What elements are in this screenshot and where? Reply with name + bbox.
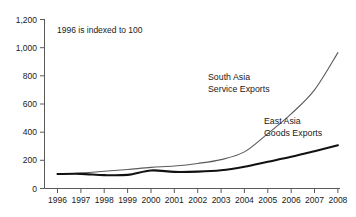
series-line-east-asia [58, 145, 338, 175]
y-tick-label: 800 [23, 71, 37, 81]
series-label-east-asia-line1: East Asia [264, 116, 301, 126]
x-tick-label: 1997 [71, 195, 90, 205]
series-label-south-asia-line2: Service Exports [208, 84, 270, 94]
x-tick-label: 2003 [212, 195, 231, 205]
x-tick-label: 2001 [165, 195, 184, 205]
y-tick-label: 200 [23, 155, 37, 165]
line-chart: 1,200 1,000 800 600 400 200 0 1996 [0, 0, 356, 217]
y-tick-label: 0 [32, 184, 37, 194]
x-tick-label: 1999 [118, 195, 137, 205]
y-tick-label: 1,200 [16, 15, 38, 25]
index-note: 1996 is indexed to 100 [57, 25, 143, 35]
y-tick-label: 600 [23, 99, 37, 109]
x-tick-label: 2002 [188, 195, 207, 205]
x-tick-label: 2004 [235, 195, 254, 205]
y-tick-label: 1,000 [16, 43, 38, 53]
x-tick-label: 2007 [305, 195, 324, 205]
y-tick-label: 400 [23, 127, 37, 137]
y-tick-marks [40, 20, 45, 189]
x-tick-labels: 1996 1997 1998 1999 2000 2001 2002 2003 … [48, 195, 348, 205]
x-tick-label: 2006 [282, 195, 301, 205]
x-tick-label: 2005 [258, 195, 277, 205]
series-label-south-asia-line1: South Asia [208, 72, 250, 82]
x-tick-label: 2000 [142, 195, 161, 205]
x-tick-marks [58, 189, 338, 194]
x-tick-label: 1998 [95, 195, 114, 205]
x-tick-label: 1996 [48, 195, 67, 205]
x-tick-label: 2008 [328, 195, 347, 205]
chart-container: 1,200 1,000 800 600 400 200 0 1996 [0, 0, 356, 217]
y-tick-labels: 1,200 1,000 800 600 400 200 0 [16, 15, 38, 194]
series-label-east-asia-line2: Goods Exports [264, 128, 323, 138]
